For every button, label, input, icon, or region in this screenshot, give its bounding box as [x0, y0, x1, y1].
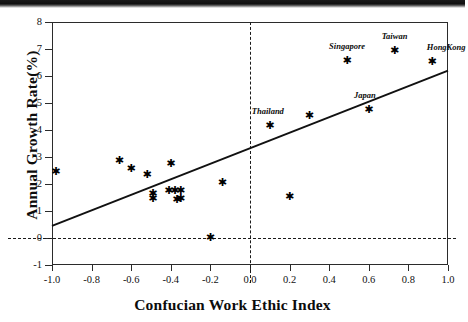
- data-point-marker: ✱: [305, 109, 314, 120]
- regression-line: [52, 22, 448, 265]
- y-tick-label: 1: [18, 205, 42, 216]
- y-tick-label: 8: [18, 16, 42, 27]
- x-tick-label: -0.6: [111, 274, 151, 285]
- y-tick-mark: [45, 265, 52, 266]
- data-point-marker: ✱: [218, 176, 227, 187]
- data-point-marker: ✱: [115, 154, 124, 165]
- point-label-japan: Japan: [354, 90, 376, 100]
- data-point-marker: ✱: [364, 104, 373, 115]
- x-tick-mark: [408, 265, 409, 271]
- data-point-marker: ✱: [265, 120, 274, 131]
- y-tick-label: 5: [18, 97, 42, 108]
- scan-artifact-bar: [0, 0, 465, 8]
- x-tick-mark: [448, 265, 449, 271]
- data-point-marker: ✱: [285, 190, 294, 201]
- x-tick-label: 0.8: [388, 274, 428, 285]
- y-tick-label: 4: [18, 124, 42, 135]
- data-point-marker: ✱: [342, 55, 351, 66]
- data-point-marker: ✱: [166, 157, 175, 168]
- data-point-marker: ✱: [142, 168, 151, 179]
- data-point-marker: ✱: [390, 44, 399, 55]
- x-tick-label: -0.4: [151, 274, 191, 285]
- y-tick-mark: [45, 157, 52, 158]
- y-tick-label: 6: [18, 70, 42, 81]
- x-tick-label: -1.0: [32, 274, 72, 285]
- data-point-marker: ✱: [206, 232, 215, 243]
- x-tick-mark: [369, 265, 370, 271]
- x-axis-title: Confucian Work Ethic Index: [0, 296, 465, 314]
- point-label-singapore: Singapore: [329, 41, 365, 51]
- x-tick-label: 1.0: [428, 274, 468, 285]
- x-tick-mark: [52, 265, 53, 271]
- x-tick-label: 0.6: [349, 274, 389, 285]
- x-tick-mark: [210, 265, 211, 271]
- x-tick-label: -0.2: [190, 274, 230, 285]
- y-tick-mark: [45, 211, 52, 212]
- x-tick-mark: [329, 265, 330, 271]
- y-tick-mark: [45, 22, 52, 23]
- y-tick-mark: [45, 184, 52, 185]
- y-tick-label: 3: [18, 151, 42, 162]
- x-tick-mark: [92, 265, 93, 271]
- point-label-thailand: Thailand: [252, 106, 284, 116]
- x-tick-mark: [131, 265, 132, 271]
- x-tick-mark: [171, 265, 172, 271]
- data-point-marker: ✱: [127, 163, 136, 174]
- y-tick-label: 7: [18, 43, 42, 54]
- x-tick-mark: [290, 265, 291, 271]
- x-tick-label: 0.2: [270, 274, 310, 285]
- y-tick-mark: [45, 49, 52, 50]
- x-tick-label: -0.8: [72, 274, 112, 285]
- chart-figure: Annual Growth Rate(%) Confucian Work Eth…: [0, 8, 465, 322]
- y-tick-label: 2: [18, 178, 42, 189]
- data-point-marker: ✱: [428, 55, 437, 66]
- x-tick-label: 0.4: [309, 274, 349, 285]
- point-label-hongkong: HongKong: [427, 42, 466, 52]
- y-tick-mark: [45, 76, 52, 77]
- data-point-marker: ✱: [176, 193, 185, 204]
- data-point-marker: ✱: [51, 165, 60, 176]
- y-tick-mark: [45, 103, 52, 104]
- data-point-marker: ✱: [148, 193, 157, 204]
- y-tick-label: -1: [18, 259, 42, 270]
- point-label-taiwan: Taiwan: [382, 31, 408, 41]
- y-tick-mark: [45, 130, 52, 131]
